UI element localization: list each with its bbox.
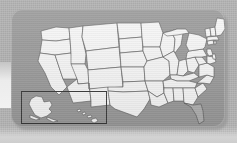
map-panel <box>11 9 225 127</box>
region-hawaii-kauai <box>77 109 81 112</box>
region-hawaii-bigisland <box>91 118 98 123</box>
inset-svg <box>22 92 107 124</box>
alaska-hawaii-inset <box>21 91 107 124</box>
state-kansas <box>121 67 145 82</box>
state-washington <box>41 27 70 41</box>
state-texas <box>108 91 150 117</box>
state-oregon <box>40 39 71 55</box>
state-newyork <box>186 33 207 51</box>
state-missouri <box>144 57 170 81</box>
state-florida-highlighted <box>184 103 204 124</box>
region-alaska-aleutians-2 <box>47 117 58 122</box>
state-colorado <box>88 67 123 89</box>
bottom-edge-highlight <box>0 132 237 143</box>
region-hawaii-maui <box>87 115 92 118</box>
region-hawaii-oahu <box>82 112 86 115</box>
map-screenshot: Map of the United States alaska-hawaii-i… <box>0 0 237 143</box>
state-maine <box>215 18 225 36</box>
region-alaska <box>29 96 52 118</box>
state-montana <box>82 23 119 51</box>
state-rhodeisland <box>214 41 216 44</box>
state-newjersey <box>207 49 213 56</box>
state-alabama <box>173 88 184 101</box>
state-michigan-upper <box>163 29 189 36</box>
left-edge-highlight <box>0 62 11 108</box>
state-nebraska <box>120 51 147 67</box>
state-northdakota <box>117 23 142 39</box>
state-southdakota <box>119 37 143 53</box>
state-wyoming <box>86 47 121 70</box>
state-virginia <box>199 63 214 77</box>
state-massachusetts <box>207 36 219 41</box>
state-minnesota <box>141 22 163 47</box>
